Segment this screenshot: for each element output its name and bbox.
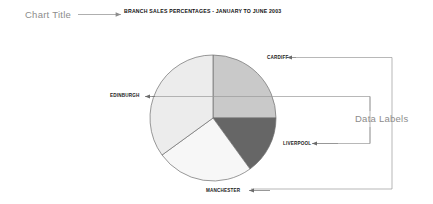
annotated-pie-chart-figure <box>0 0 433 204</box>
chart-title: BRANCH SALES PERCENTAGES - JANUARY TO JU… <box>124 9 281 14</box>
pie-data-label-manchester: MANCHESTER <box>206 189 240 194</box>
data-labels-callout-label: Data Labels <box>355 114 408 124</box>
pie-slice-cardiff[interactable] <box>213 55 276 118</box>
pie-data-label-cardiff: CARDIFF <box>267 56 288 61</box>
pie-data-label-liverpool: LIVERPOOL <box>283 142 311 147</box>
pie-data-label-edinburgh: EDINBURGH <box>110 94 139 99</box>
chart-title-callout-label: Chart Title <box>25 10 71 20</box>
screenshot-canvas: Chart Title BRANCH SALES PERCENTAGES - J… <box>0 0 433 204</box>
